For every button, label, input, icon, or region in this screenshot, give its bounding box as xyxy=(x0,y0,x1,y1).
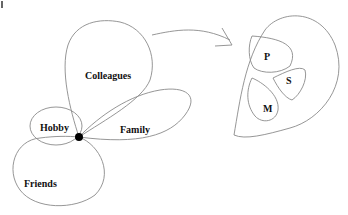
group-m-shape xyxy=(248,78,278,121)
label-p: P xyxy=(264,51,270,62)
label-friends: Friends xyxy=(24,178,57,189)
label-hobby: Hobby xyxy=(40,122,69,133)
label-s: S xyxy=(286,75,292,86)
label-m: M xyxy=(263,103,273,114)
social-circles-diagram: Colleagues Family Hobby Friends P S M xyxy=(0,0,348,215)
arrow xyxy=(152,30,230,40)
ego-node xyxy=(75,133,83,141)
label-colleagues: Colleagues xyxy=(85,70,131,81)
friends-circle xyxy=(13,136,104,205)
group-p-shape xyxy=(249,36,292,72)
label-family: Family xyxy=(120,124,150,135)
